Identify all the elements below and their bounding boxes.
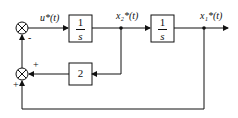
gain-block: 2 bbox=[69, 68, 92, 79]
integrator2-numerator: 1 bbox=[151, 17, 174, 28]
signal-x1-label: x₁*(t) bbox=[200, 11, 222, 21]
integrator2-denominator: s bbox=[151, 31, 174, 42]
sign-minus-top: - bbox=[28, 33, 31, 43]
sign-plus-gain: + bbox=[33, 60, 39, 70]
integrator1-numerator: 1 bbox=[69, 17, 92, 28]
branch-point-x2 bbox=[119, 26, 123, 30]
sign-plus-feedback: + bbox=[13, 80, 19, 90]
integrator2-block: 1 s bbox=[151, 17, 174, 42]
integrator1-block: 1 s bbox=[69, 17, 92, 42]
signal-u-label: u*(t) bbox=[40, 13, 59, 23]
branch-point-x1 bbox=[202, 26, 206, 30]
block-diagram: 1 s 1 s 2 u*(t) x₂*(t) x₁*(t) - + + bbox=[0, 0, 238, 118]
integrator1-denominator: s bbox=[69, 31, 92, 42]
signal-x2-label: x₂*(t) bbox=[116, 11, 138, 21]
